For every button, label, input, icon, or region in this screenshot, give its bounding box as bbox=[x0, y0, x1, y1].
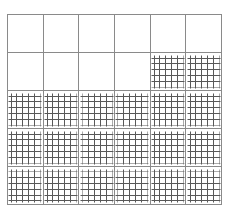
subgrid-lines bbox=[80, 93, 113, 126]
nested-subgrid bbox=[116, 131, 149, 164]
nested-subgrid bbox=[116, 169, 149, 202]
nested-subgrid bbox=[44, 93, 77, 126]
subgrid-lines bbox=[9, 169, 42, 202]
grid-cell-r3c4[interactable] bbox=[115, 91, 151, 129]
grid-cell-r2c2[interactable] bbox=[44, 53, 80, 91]
subgrid-lines bbox=[9, 93, 42, 126]
nested-subgrid bbox=[9, 169, 42, 202]
grid-cell-r3c3[interactable] bbox=[79, 91, 115, 129]
grid-cell-r4c2[interactable] bbox=[44, 129, 80, 167]
grid-cell-r5c5[interactable] bbox=[151, 167, 187, 205]
nested-subgrid bbox=[151, 131, 184, 164]
nested-subgrid bbox=[80, 169, 113, 202]
grid-cell-r5c3[interactable] bbox=[79, 167, 115, 205]
nested-subgrid bbox=[151, 169, 184, 202]
grid-cell-r2c5[interactable] bbox=[151, 53, 187, 91]
subgrid-lines bbox=[187, 55, 220, 88]
grid-cell-r3c5[interactable] bbox=[151, 91, 187, 129]
subgrid-lines bbox=[80, 131, 113, 164]
subgrid-lines bbox=[187, 131, 220, 164]
subgrid-lines bbox=[116, 93, 149, 126]
nested-subgrid bbox=[80, 93, 113, 126]
nested-subgrid bbox=[80, 131, 113, 164]
subgrid-lines bbox=[80, 169, 113, 202]
subgrid-lines bbox=[116, 131, 149, 164]
nested-subgrid bbox=[187, 93, 220, 126]
grid-cell-r3c1[interactable] bbox=[8, 91, 44, 129]
grid-cell-r2c3[interactable] bbox=[79, 53, 115, 91]
subgrid-lines bbox=[44, 93, 77, 126]
subgrid-lines bbox=[151, 55, 184, 88]
subgrid-lines bbox=[44, 169, 77, 202]
nested-subgrid bbox=[9, 131, 42, 164]
nested-subgrid bbox=[151, 55, 184, 88]
subgrid-lines bbox=[187, 93, 220, 126]
grid-cell-r5c6[interactable] bbox=[186, 167, 222, 205]
subgrid-lines bbox=[44, 131, 77, 164]
nested-subgrid bbox=[44, 169, 77, 202]
grid-cell-r5c2[interactable] bbox=[44, 167, 80, 205]
subgrid-lines bbox=[187, 169, 220, 202]
nested-subgrid bbox=[187, 169, 220, 202]
nested-subgrid bbox=[151, 93, 184, 126]
grid-cell-r1c3[interactable] bbox=[79, 15, 115, 53]
grid-cell-r2c6[interactable] bbox=[186, 53, 222, 91]
grid-cell-r4c6[interactable] bbox=[186, 129, 222, 167]
subgrid-lines bbox=[9, 131, 42, 164]
grid-cell-r5c4[interactable] bbox=[115, 167, 151, 205]
grid-cell-r1c1[interactable] bbox=[8, 15, 44, 53]
grid-cell-r4c3[interactable] bbox=[79, 129, 115, 167]
nested-subgrid bbox=[116, 93, 149, 126]
subgrid-lines bbox=[116, 169, 149, 202]
subgrid-lines bbox=[151, 93, 184, 126]
outer-grid bbox=[7, 14, 222, 205]
grid-cell-r1c2[interactable] bbox=[44, 15, 80, 53]
subgrid-lines bbox=[151, 169, 184, 202]
diagram-canvas bbox=[0, 0, 231, 212]
nested-subgrid bbox=[44, 131, 77, 164]
grid-cell-r4c5[interactable] bbox=[151, 129, 187, 167]
grid-cell-r2c1[interactable] bbox=[8, 53, 44, 91]
grid-cell-r1c4[interactable] bbox=[115, 15, 151, 53]
grid-cell-r5c1[interactable] bbox=[8, 167, 44, 205]
grid-cell-r4c1[interactable] bbox=[8, 129, 44, 167]
grid-cell-r1c5[interactable] bbox=[151, 15, 187, 53]
nested-subgrid bbox=[9, 93, 42, 126]
nested-subgrid bbox=[187, 131, 220, 164]
subgrid-lines bbox=[151, 131, 184, 164]
grid-cell-r2c4[interactable] bbox=[115, 53, 151, 91]
grid-cell-r1c6[interactable] bbox=[186, 15, 222, 53]
grid-cell-r4c4[interactable] bbox=[115, 129, 151, 167]
grid-cell-r3c6[interactable] bbox=[186, 91, 222, 129]
nested-subgrid bbox=[187, 55, 220, 88]
grid-cell-r3c2[interactable] bbox=[44, 91, 80, 129]
